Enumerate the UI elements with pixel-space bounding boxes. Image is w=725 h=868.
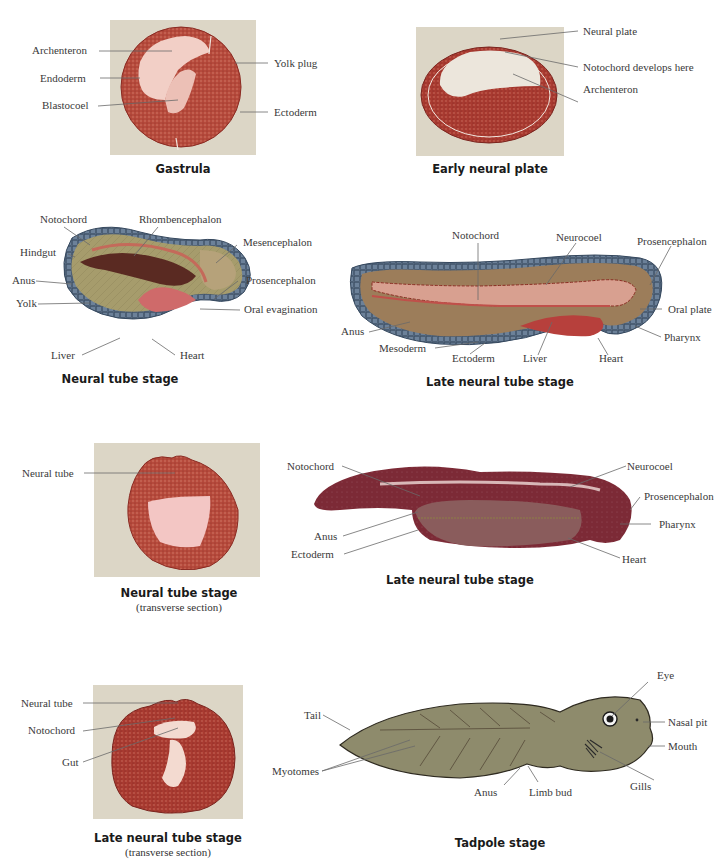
- label-endoderm: Endoderm: [40, 72, 86, 85]
- label-yolk: Yolk: [16, 297, 37, 310]
- label-prosencephalon: Prosencephalon: [644, 490, 714, 503]
- label-notochord-develops-here: Notochord develops here: [583, 61, 694, 74]
- label-anus: Anus: [341, 325, 364, 338]
- caption-gastrula: Gastrula: [110, 162, 256, 176]
- early-neural-plate-photo: [416, 27, 564, 156]
- caption-neural-tube-stage: Neural tube stage: [60, 372, 180, 386]
- late-neural-tube-stage-drawing: [350, 255, 661, 345]
- label-eye: Eye: [657, 669, 674, 682]
- label-pharynx: Pharynx: [664, 331, 701, 344]
- label-neural-tube: Neural tube: [21, 697, 73, 710]
- label-myotomes: Myotomes: [272, 765, 319, 778]
- label-notochord: Notochord: [40, 213, 87, 226]
- label-neural-tube: Neural tube: [22, 467, 74, 480]
- label-ectoderm: Ectoderm: [274, 106, 317, 119]
- subcaption-transverse-section: (transverse section): [88, 846, 248, 858]
- caption-late-neural-tube-stage-transverse: Late neural tube stage: [88, 831, 248, 845]
- label-notochord: Notochord: [452, 229, 499, 242]
- label-blastocoel: Blastocoel: [42, 99, 88, 112]
- label-nasal-pit: Nasal pit: [668, 716, 707, 729]
- label-notochord: Notochord: [28, 724, 75, 737]
- gastrula-photo: [110, 20, 256, 155]
- label-prosencephalon: Prosencephalon: [637, 235, 707, 248]
- label-oral-plate: Oral plate: [668, 303, 712, 316]
- label-liver: Liver: [51, 349, 75, 362]
- label-prosencephalon: Prosencephalon: [246, 274, 316, 287]
- label-mouth: Mouth: [668, 740, 697, 753]
- label-heart: Heart: [180, 349, 204, 362]
- caption-late-neural-tube-stage-2: Late neural tube stage: [380, 573, 540, 587]
- subcaption-transverse-section: (transverse section): [104, 601, 254, 613]
- neural-tube-stage-drawing: [64, 227, 250, 319]
- label-hindgut: Hindgut: [20, 246, 56, 259]
- label-liver: Liver: [523, 352, 547, 365]
- caption-tadpole-stage: Tadpole stage: [430, 836, 570, 850]
- late-neural-tube-transverse-photo: [93, 685, 243, 819]
- label-mesoderm: Mesoderm: [379, 342, 426, 355]
- label-yolk-plug: Yolk plug: [274, 57, 317, 70]
- label-ectoderm: Ectoderm: [452, 352, 495, 365]
- label-oral-evagination: Oral evagination: [244, 303, 318, 316]
- neural-tube-transverse-photo: [94, 443, 260, 577]
- label-anus: Anus: [314, 530, 337, 543]
- label-neurocoel: Neurocoel: [556, 231, 602, 244]
- diagram-artwork: [0, 0, 725, 868]
- label-anus: Anus: [12, 274, 35, 287]
- label-heart: Heart: [599, 352, 623, 365]
- label-heart: Heart: [622, 553, 646, 566]
- label-neural-plate: Neural plate: [583, 25, 637, 38]
- label-archenteron: Archenteron: [32, 44, 87, 57]
- label-ectoderm: Ectoderm: [291, 548, 334, 561]
- label-gut: Gut: [62, 756, 79, 769]
- caption-late-neural-tube-stage: Late neural tube stage: [420, 375, 580, 389]
- label-pharynx: Pharynx: [659, 518, 696, 531]
- late-neural-tube-stage-photo: [314, 466, 632, 548]
- label-limb-bud: Limb bud: [529, 786, 572, 799]
- caption-early-neural-plate: Early neural plate: [416, 162, 564, 176]
- label-anus: Anus: [474, 786, 497, 799]
- label-mesencephalon: Mesencephalon: [243, 236, 312, 249]
- label-tail: Tail: [304, 709, 321, 722]
- label-neurocoel: Neurocoel: [627, 460, 673, 473]
- label-rhombencephalon: Rhombencephalon: [139, 213, 221, 226]
- tadpole-drawing: [340, 697, 653, 778]
- caption-neural-tube-stage-transverse: Neural tube stage: [104, 586, 254, 600]
- label-archenteron: Archenteron: [583, 83, 638, 96]
- label-gills: Gills: [630, 780, 651, 793]
- label-notochord: Notochord: [287, 460, 334, 473]
